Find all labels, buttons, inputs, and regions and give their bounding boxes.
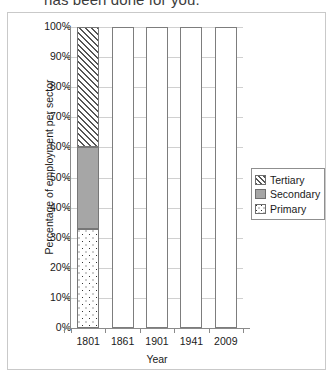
y-tick-label: 100% xyxy=(27,20,71,32)
legend-label: Secondary xyxy=(270,188,320,200)
legend-item-primary: Primary xyxy=(255,202,320,216)
chart-screenshot: has been done for you. Percentage of emp… xyxy=(0,0,333,371)
legend-swatch-secondary-icon xyxy=(255,189,266,199)
y-tick-label: 10% xyxy=(27,291,71,303)
legend-swatch-tertiary-icon xyxy=(255,175,266,185)
y-tick-label: 30% xyxy=(27,231,71,243)
bar-2009 xyxy=(215,27,237,328)
x-tick-mark xyxy=(105,328,106,333)
gridline xyxy=(71,328,243,329)
x-tick-mark xyxy=(64,328,65,333)
legend-swatch-primary-icon xyxy=(255,204,266,214)
y-tick-label: 80% xyxy=(27,80,71,92)
legend-item-secondary: Secondary xyxy=(255,187,320,201)
legend-label: Primary xyxy=(270,203,306,215)
y-tick-label: 40% xyxy=(27,201,71,213)
y-tick-label: 60% xyxy=(27,140,71,152)
instruction-text: has been done for you. xyxy=(44,0,304,8)
chart-legend: TertiarySecondaryPrimary xyxy=(251,168,325,220)
bar-segment-empty xyxy=(180,27,202,328)
y-tick-label: 90% xyxy=(27,50,71,62)
x-tick-mark xyxy=(140,328,141,333)
x-axis-title: Year xyxy=(64,353,250,365)
bar-segment-empty xyxy=(112,27,134,328)
y-axis-ticks: 0%10%20%30%40%50%60%70%80%90%100% xyxy=(16,27,71,328)
bar-segment-secondary xyxy=(77,147,99,228)
x-tick-mark xyxy=(209,328,210,333)
y-tick-label: 70% xyxy=(27,110,71,122)
x-tick-label-2009: 2009 xyxy=(202,335,250,347)
y-tick-label: 50% xyxy=(27,171,71,183)
bar-segment-empty xyxy=(146,27,168,328)
bar-1941 xyxy=(180,27,202,328)
plot-area xyxy=(71,27,243,328)
legend-item-tertiary: Tertiary xyxy=(255,173,320,187)
legend-label: Tertiary xyxy=(270,174,304,186)
bar-segment-tertiary xyxy=(77,27,99,147)
y-tick-label: 20% xyxy=(27,261,71,273)
chart-frame: Percentage of employment per sector 0%10… xyxy=(7,12,326,370)
bar-1861 xyxy=(112,27,134,328)
x-tick-mark xyxy=(243,328,244,333)
x-tick-mark xyxy=(71,328,72,333)
bar-segment-empty xyxy=(215,27,237,328)
bar-1801 xyxy=(77,27,99,328)
bar-1901 xyxy=(146,27,168,328)
bar-segment-primary xyxy=(77,229,99,328)
x-tick-mark xyxy=(174,328,175,333)
